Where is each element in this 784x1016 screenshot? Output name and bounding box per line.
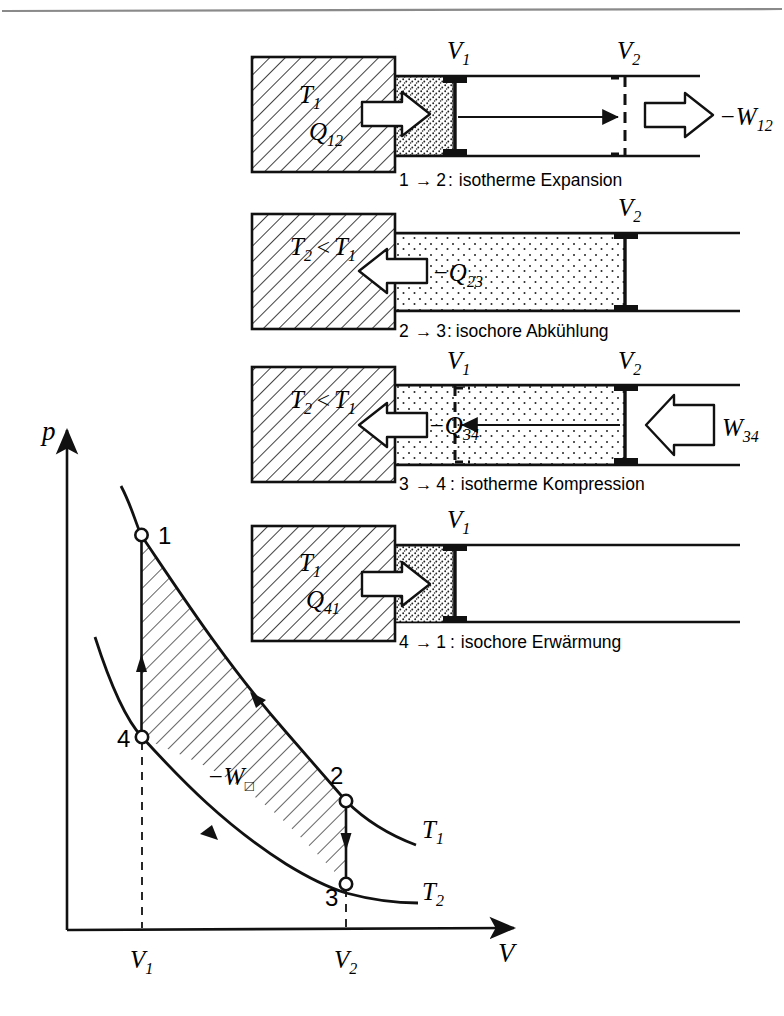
work-label: −W12 xyxy=(719,103,773,134)
volume-mark-v1: V1 xyxy=(447,506,470,537)
svg-text:3→4:isotherme Kompression: 3→4:isotherme Kompression xyxy=(399,474,645,494)
svg-text:4→1:isochore Erwärmung: 4→1:isochore Erwärmung xyxy=(399,632,621,652)
v-axis-label: V xyxy=(498,938,518,968)
state-point-2[interactable] xyxy=(340,795,352,807)
state-point-3[interactable] xyxy=(340,878,352,890)
volume-mark-v2: V2 xyxy=(618,347,641,378)
panel-isotherme-expansion: T1 Q12 V1 V2 −W12 1→2:isotherme Expansio… xyxy=(252,37,773,190)
state-point-4[interactable] xyxy=(136,731,148,743)
stirling-cycle-figure: T1 Q12 V1 V2 −W12 1→2:isotherme Expansio… xyxy=(0,0,784,1016)
volume-mark-v2: V2 xyxy=(618,194,641,225)
isotherm-T1-label: T1 xyxy=(422,816,444,847)
panel-isochore-abkuehlung: T2<T1 −Q23 V2 2→3:isochore Abkühlung xyxy=(252,194,740,341)
v-axis xyxy=(67,928,514,930)
reservoir-temperature-label: T2<T1 xyxy=(290,386,356,417)
gas-region xyxy=(395,234,625,310)
state-point-2-label: 2 xyxy=(330,762,343,789)
panel-caption: 2→3:isochore Abkühlung xyxy=(399,321,609,341)
volume-mark-v2: V2 xyxy=(617,37,640,68)
work-arrow xyxy=(646,395,714,455)
panel-caption: 4→1:isochore Erwärmung xyxy=(399,632,621,652)
isotherm-3-4-direction-arrow xyxy=(200,825,218,840)
pv-diagram: p V 1 2 3 4 T1 xyxy=(40,416,518,977)
volume-mark-v1: V1 xyxy=(447,37,470,68)
reservoir-temperature-label: T2<T1 xyxy=(290,233,356,264)
p-axis-label: p xyxy=(40,416,56,446)
figure-canvas: T1 Q12 V1 V2 −W12 1→2:isotherme Expansio… xyxy=(0,0,784,1016)
panel-caption: 1→2:isotherme Expansion xyxy=(399,170,622,190)
state-point-3-label: 3 xyxy=(325,884,338,911)
state-point-1[interactable] xyxy=(135,529,147,541)
panel-isochore-erwaermung: T1 Q41 V1 4→1:isochore Erwärmung xyxy=(252,506,740,652)
svg-text:2→3:isochore Abkühlung: 2→3:isochore Abkühlung xyxy=(399,321,609,341)
panel-isotherme-kompression: T2<T1 −Q34 V1 V2 W34 3→4:isotherme Kompr… xyxy=(252,347,759,494)
v2-tick-label: V2 xyxy=(334,946,357,977)
state-point-1-label: 1 xyxy=(158,522,171,549)
state-point-4-label: 4 xyxy=(117,725,130,752)
work-label: W34 xyxy=(722,414,759,445)
volume-mark-v1: V1 xyxy=(447,347,470,378)
panel-caption: 3→4:isotherme Kompression xyxy=(399,474,645,494)
top-rule xyxy=(2,9,782,11)
v1-tick-label: V1 xyxy=(130,946,153,977)
work-arrow xyxy=(645,93,713,137)
isotherm-T2-label: T2 xyxy=(422,878,444,909)
svg-text:1→2:isotherme Expansion: 1→2:isotherme Expansion xyxy=(399,170,622,190)
